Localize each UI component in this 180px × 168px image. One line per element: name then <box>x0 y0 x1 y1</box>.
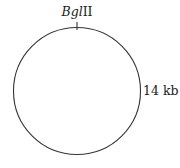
restriction-site-label: BglII <box>57 5 97 19</box>
plasmid-size-label: 14 kb <box>143 84 178 98</box>
enzyme-name-italic: Bgl <box>61 4 82 19</box>
plasmid-circle <box>14 28 141 155</box>
enzyme-name-roman: II <box>83 4 93 19</box>
